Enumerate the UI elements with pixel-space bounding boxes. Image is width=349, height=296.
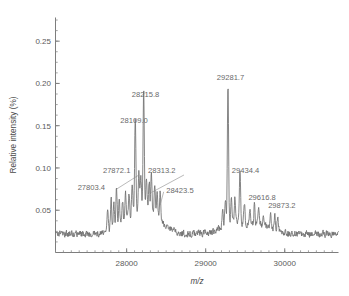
spectrum-trace — [56, 89, 339, 238]
peak-label-27803-4: 27803.4 — [78, 183, 105, 192]
x-axis-title: m/z — [190, 277, 203, 286]
y-axis-tick-label: 0.10 — [35, 164, 51, 173]
mass-spectrum-figure: 0.050.100.150.200.25280002900030000m/zRe… — [0, 0, 349, 296]
peak-label-29434-4: 29434.4 — [232, 166, 259, 175]
peak-label-28215-8: 28215.8 — [132, 90, 159, 99]
y-axis-tick-label: 0.05 — [35, 206, 51, 215]
peak-label-27872-1: 27872.1 — [103, 166, 130, 175]
y-axis-tick-label: 0.25 — [35, 37, 51, 46]
y-axis-title: Relative intensity (%) — [9, 96, 18, 173]
peak-label-29281-7: 29281.7 — [217, 73, 244, 82]
peak-label-29873-2: 29873.2 — [268, 201, 295, 210]
peak-label-28313-2: 28313.2 — [148, 166, 175, 175]
x-axis-tick-label: 30000 — [274, 259, 297, 268]
peak-leader-line — [117, 175, 139, 189]
peak-label-28109-0: 28109.0 — [120, 116, 147, 125]
peak-label-28423-5: 28423.5 — [166, 186, 193, 195]
spectrum-plot: 0.050.100.150.200.25280002900030000m/zRe… — [0, 0, 349, 296]
y-axis-tick-label: 0.15 — [35, 122, 51, 131]
x-axis-tick-label: 28000 — [116, 259, 139, 268]
x-axis-tick-label: 29000 — [195, 259, 218, 268]
y-axis-tick-label: 0.20 — [35, 79, 51, 88]
